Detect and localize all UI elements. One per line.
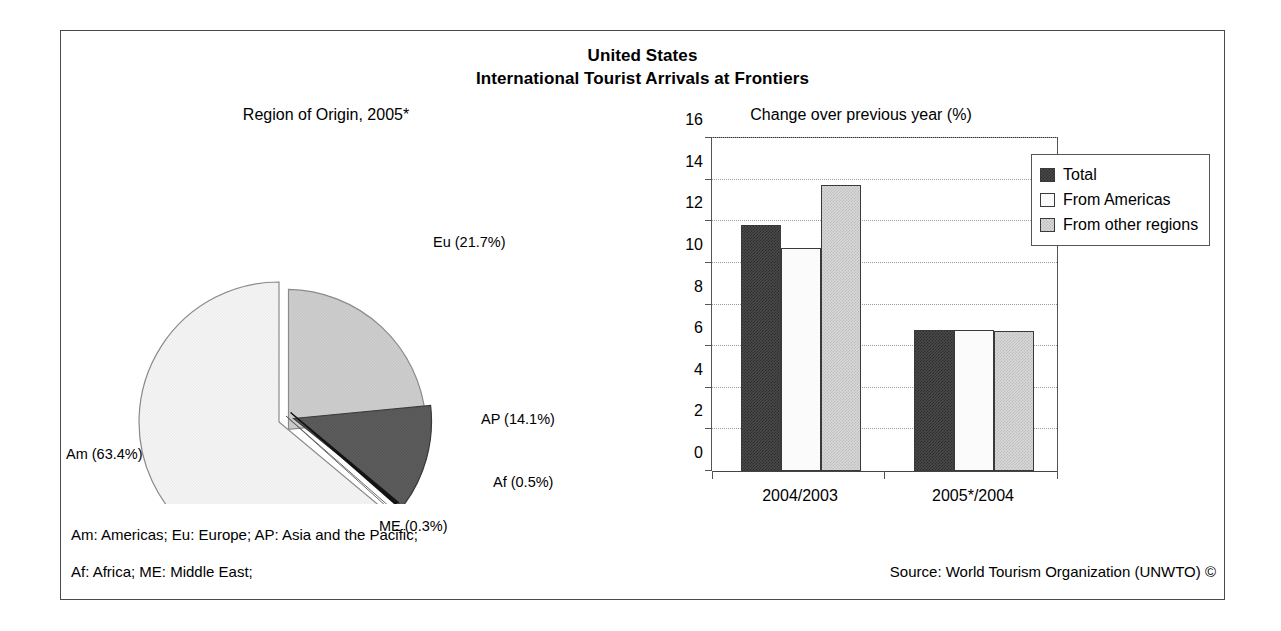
- ytick-mark-6: [705, 345, 712, 346]
- legend-swatch-from-americas: [1040, 193, 1055, 207]
- bar-chart-plot-area: 16 14 12 10 8 6 4 2 0 2004/2003 2005*/20…: [711, 137, 1058, 471]
- bar-chart-panel: Change over previous year (%) 16 14 12: [621, 106, 1221, 536]
- ytick-mark-14: [705, 179, 712, 180]
- ytick-mark-2: [705, 428, 712, 429]
- bar-2005-americas[interactable]: [954, 330, 994, 472]
- xtick-mark-start: [712, 471, 713, 479]
- ytick-label-6: 6: [694, 319, 703, 337]
- pie-chart-title: Region of Origin, 2005*: [61, 106, 591, 124]
- pie-label-af: Af (0.5%): [493, 474, 553, 490]
- bar-2004-total[interactable]: [741, 225, 781, 471]
- xtick-mark-middle: [884, 471, 885, 479]
- ytick-label-12: 12: [685, 194, 703, 212]
- gridline-12: [712, 220, 1057, 221]
- figure-title: United States International Tourist Arri…: [61, 45, 1224, 91]
- legend-label-total: Total: [1063, 166, 1097, 184]
- abbreviation-note-line-2: Af: Africa; ME: Middle East;: [71, 563, 253, 580]
- legend-label-from-americas: From Americas: [1063, 191, 1171, 209]
- figure-frame: United States International Tourist Arri…: [60, 30, 1225, 600]
- bar-2004-americas[interactable]: [781, 248, 821, 471]
- xtick-label-2004-2003: 2004/2003: [762, 487, 838, 505]
- legend-label-from-other-regions: From other regions: [1063, 216, 1198, 234]
- gridline-16: [712, 137, 1057, 138]
- ytick-label-8: 8: [694, 278, 703, 296]
- ytick-mark-0: [705, 470, 712, 471]
- xtick-mark-end: [1057, 471, 1058, 479]
- ytick-mark-12: [705, 220, 712, 221]
- pie-label-ap: AP (14.1%): [481, 411, 555, 427]
- bar-chart-legend: Total From Americas From other regions: [1031, 154, 1210, 246]
- ytick-label-14: 14: [685, 153, 703, 171]
- pie-chart-panel: Region of Origin, 2005*: [61, 106, 621, 526]
- ytick-mark-16: [705, 137, 712, 138]
- ytick-mark-4: [705, 387, 712, 388]
- ytick-label-0: 0: [694, 444, 703, 462]
- bar-2005-other[interactable]: [994, 331, 1034, 472]
- bar-2005-total[interactable]: [914, 330, 954, 472]
- ytick-label-4: 4: [694, 361, 703, 379]
- gridline-14: [712, 179, 1057, 180]
- ytick-mark-8: [705, 304, 712, 305]
- ytick-label-16: 16: [685, 111, 703, 129]
- abbreviation-note-line-1: Am: Americas; Eu: Europe; AP: Asia and t…: [71, 526, 418, 543]
- legend-swatch-from-other-regions: [1040, 218, 1055, 232]
- legend-swatch-total: [1040, 168, 1055, 182]
- title-line-2: International Tourist Arrivals at Fronti…: [61, 67, 1224, 91]
- source-credit: Source: World Tourism Organization (UNWT…: [890, 563, 1216, 580]
- legend-item-from-americas[interactable]: From Americas: [1040, 187, 1198, 212]
- xtick-label-2005-2004: 2005*/2004: [932, 487, 1014, 505]
- ytick-label-2: 2: [694, 402, 703, 420]
- pie-label-eu: Eu (21.7%): [433, 234, 506, 250]
- legend-item-total[interactable]: Total: [1040, 162, 1198, 187]
- ytick-label-10: 10: [685, 236, 703, 254]
- pie-label-am: Am (63.4%): [66, 446, 143, 462]
- bar-2004-other[interactable]: [821, 185, 861, 471]
- ytick-mark-10: [705, 262, 712, 263]
- title-line-1: United States: [61, 45, 1224, 67]
- legend-item-from-other-regions[interactable]: From other regions: [1040, 212, 1198, 237]
